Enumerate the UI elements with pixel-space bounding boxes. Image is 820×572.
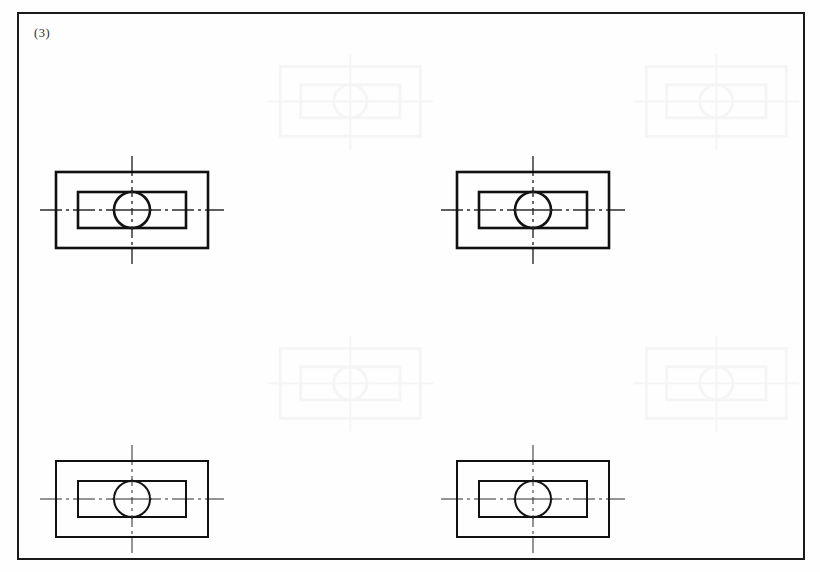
view-bottom-left (36, 441, 228, 557)
view-top-right (437, 152, 629, 268)
figure-label: (3) (34, 26, 50, 41)
view-top-left (36, 152, 228, 268)
view-bottom-right (437, 441, 629, 557)
drawing-sheet: (3) (0, 0, 820, 572)
